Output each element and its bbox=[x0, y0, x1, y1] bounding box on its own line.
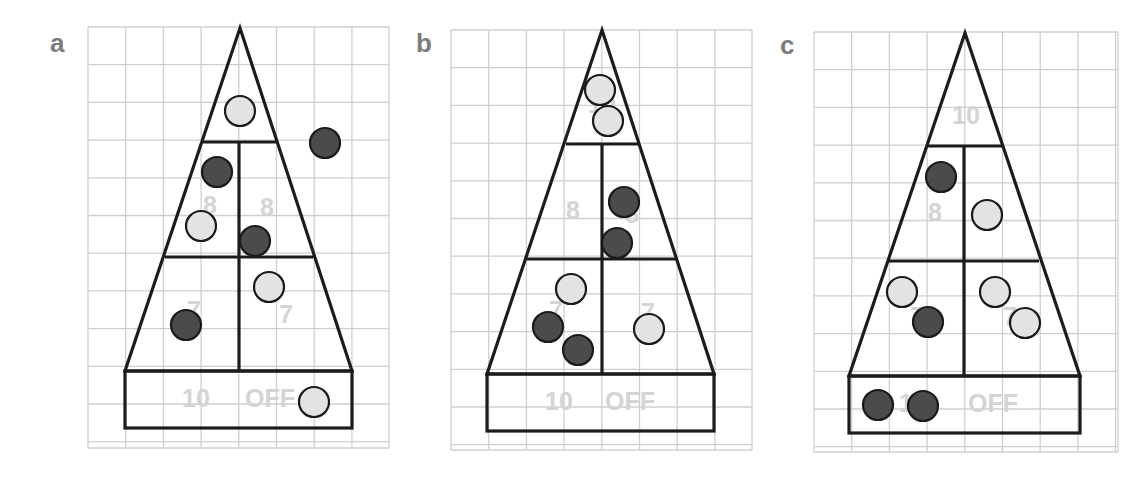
panel-c: c10887710OFF bbox=[780, 30, 1118, 452]
light-puck bbox=[972, 200, 1002, 230]
dark-puck bbox=[863, 390, 893, 420]
light-puck bbox=[186, 211, 216, 241]
dark-puck bbox=[310, 128, 340, 158]
dark-puck bbox=[202, 157, 232, 187]
light-puck bbox=[556, 274, 586, 304]
light-puck bbox=[225, 96, 255, 126]
dark-puck bbox=[926, 162, 956, 192]
zone-label: 8 bbox=[928, 198, 942, 226]
light-puck bbox=[1010, 308, 1040, 338]
dark-puck bbox=[908, 391, 938, 421]
light-puck bbox=[593, 106, 623, 136]
zone-label: 10 bbox=[545, 387, 573, 415]
panel-label: b bbox=[416, 28, 432, 58]
zone-label: OFF bbox=[245, 384, 295, 412]
dark-puck bbox=[563, 335, 593, 365]
light-puck bbox=[299, 387, 329, 417]
panel-a: a887710OFF bbox=[50, 27, 389, 448]
light-puck bbox=[585, 75, 615, 105]
dark-puck bbox=[602, 228, 632, 258]
dark-puck bbox=[913, 307, 943, 337]
zone-label: 7 bbox=[279, 300, 293, 328]
dark-puck bbox=[533, 312, 563, 342]
shuffleboard-figure: a887710OFF b10887710OFF c10887710OFF bbox=[0, 0, 1147, 477]
panel-label: a bbox=[50, 28, 65, 58]
grid bbox=[814, 32, 1118, 452]
zone-label: 10 bbox=[182, 384, 210, 412]
light-puck bbox=[980, 277, 1010, 307]
dark-puck bbox=[240, 226, 270, 256]
light-puck bbox=[634, 314, 664, 344]
zone-label: 8 bbox=[260, 193, 274, 221]
off-zone-box bbox=[487, 374, 714, 431]
zone-label: OFF bbox=[605, 387, 655, 415]
zone-label: 8 bbox=[566, 196, 580, 224]
dark-puck bbox=[609, 187, 639, 217]
dark-puck bbox=[171, 310, 201, 340]
pucks bbox=[533, 75, 664, 365]
zone-label: OFF bbox=[968, 389, 1018, 417]
panel-label: c bbox=[780, 30, 794, 60]
panel-b: b10887710OFF bbox=[416, 28, 752, 450]
zone-label: 10 bbox=[952, 101, 980, 129]
light-puck bbox=[254, 272, 284, 302]
light-puck bbox=[887, 277, 917, 307]
